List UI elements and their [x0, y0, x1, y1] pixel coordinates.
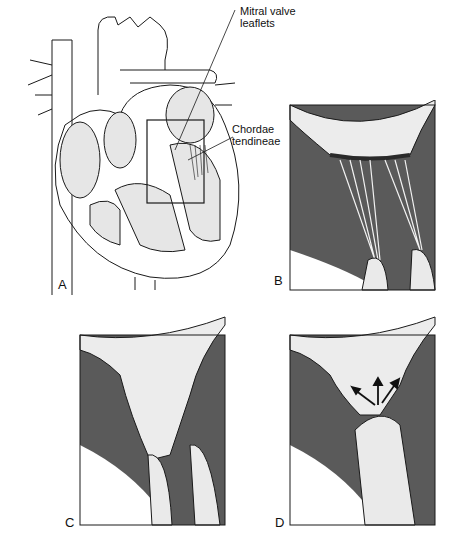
panel-label-b: B [274, 273, 283, 288]
panel-label-d: D [275, 515, 284, 530]
panel-b-chordae-closeup: B [270, 100, 449, 295]
panel-c-papillary-closeup: C [60, 315, 240, 535]
panel-d-prolapse-closeup: D [270, 315, 449, 535]
panel-d-illustration [270, 315, 449, 535]
heart-illustration [20, 5, 270, 295]
panel-a-heart: Mitral valve leaflets Chordae tendineae … [20, 5, 270, 295]
panel-label-a: A [58, 277, 67, 292]
callout-mitral-valve-leaflets: Mitral valve leaflets [240, 5, 320, 29]
panel-b-illustration [270, 100, 449, 295]
panel-c-illustration [60, 315, 240, 535]
panel-label-c: C [65, 515, 74, 530]
